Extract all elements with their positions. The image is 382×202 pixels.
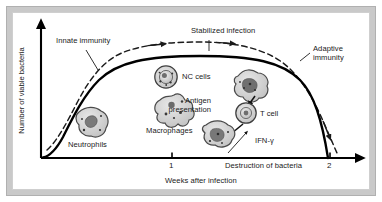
annotation-antigen-presentation-line2: presentation bbox=[139, 105, 211, 114]
dashed-arrow-right bbox=[216, 42, 231, 43]
annotation-adaptive-immunity-line1: Adaptive bbox=[313, 44, 343, 53]
cell-label-macrophages: Macrophages bbox=[146, 126, 193, 135]
nc-cell-illustration bbox=[155, 66, 177, 88]
t-cell-illustration bbox=[232, 103, 256, 133]
cell-label-t-cell: T cell bbox=[260, 109, 278, 118]
antigen-presenting-cell-illustration bbox=[234, 70, 268, 103]
annotation-innate-immunity: Innate immunity bbox=[56, 36, 110, 45]
annotation-ifn-gamma: IFN-γ bbox=[255, 136, 274, 145]
x-tick-label-2: 2 bbox=[327, 161, 331, 170]
figure-root: Number of viable bacteria Innate immunit… bbox=[0, 0, 382, 202]
neutrophil-illustration bbox=[76, 107, 108, 137]
dashed-arrow-left bbox=[148, 44, 162, 45]
destroyed-bacteria-cell-illustration bbox=[202, 121, 234, 147]
x-tick-label-1: 1 bbox=[169, 161, 173, 170]
annotation-destruction-of-bacteria: Destruction of bacteria bbox=[225, 161, 302, 170]
annotation-stabilized-infection: Stabilized infection bbox=[191, 26, 255, 35]
y-axis-label: Number of viable bacteria bbox=[17, 31, 26, 151]
cell-label-nc-cells: NC cells bbox=[182, 72, 211, 81]
cell-label-neutrophils: Neutrophils bbox=[68, 140, 107, 149]
leader-adaptive-immunity bbox=[300, 53, 310, 61]
annotation-adaptive-immunity-line2: immunity bbox=[313, 53, 344, 62]
annotation-antigen-presentation-line1: Antigen bbox=[149, 96, 211, 105]
leader-innate-immunity bbox=[86, 50, 98, 70]
x-axis-label: Weeks after infection bbox=[165, 176, 237, 185]
